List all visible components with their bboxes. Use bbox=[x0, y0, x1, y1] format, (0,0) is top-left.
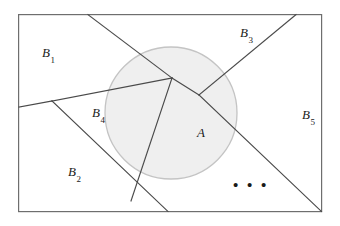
region-label-a: A bbox=[197, 126, 205, 143]
region-label-a-base: A bbox=[197, 125, 205, 140]
region-label-b5: B5 bbox=[302, 108, 314, 125]
region-label-b5-base: B bbox=[302, 107, 310, 122]
region-label-b5-sub: 5 bbox=[310, 117, 315, 127]
region-label-b1-sub: 1 bbox=[50, 55, 55, 65]
region-label-b1: B1 bbox=[42, 46, 54, 63]
region-label-b3-base: B bbox=[240, 25, 248, 40]
ellipsis-marker: • • • bbox=[233, 178, 269, 193]
region-label-b3: B3 bbox=[240, 26, 252, 43]
region-label-b3-sub: 3 bbox=[248, 35, 253, 45]
diagram-canvas bbox=[0, 0, 340, 226]
region-label-b4: B4 bbox=[92, 106, 104, 123]
region-label-b2-sub: 2 bbox=[76, 174, 81, 184]
region-label-b2-base: B bbox=[68, 164, 76, 179]
partition-diagram-figure: A B1 B2 B3 B4 B5 • • • bbox=[0, 0, 340, 226]
region-label-b4-base: B bbox=[92, 105, 100, 120]
region-label-b1-base: B bbox=[42, 45, 50, 60]
region-label-b2: B2 bbox=[68, 165, 80, 182]
region-label-b4-sub: 4 bbox=[100, 115, 105, 125]
